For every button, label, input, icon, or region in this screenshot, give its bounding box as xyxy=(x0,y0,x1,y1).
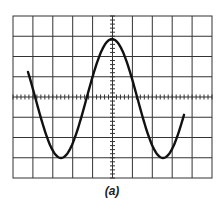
oscilloscope-graticule xyxy=(0,0,224,210)
figure-caption: (a) xyxy=(0,184,224,198)
